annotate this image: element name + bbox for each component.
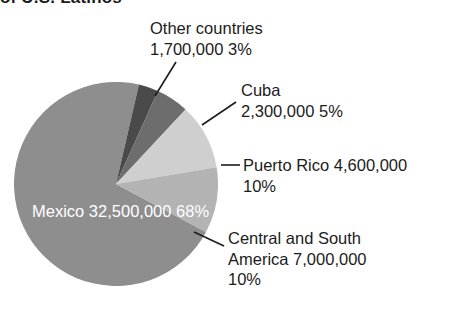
figure-title-cropped: of U.S. Latinos bbox=[0, 0, 300, 10]
pie-label-other-countries: Other countries 1,700,000 3% bbox=[150, 18, 263, 59]
pie-label-other-countries-value: 1,700,000 3% bbox=[150, 39, 263, 60]
pie-chart: Mexico 32,500,000 68% bbox=[14, 82, 218, 286]
pie-label-cuba-value: 2,300,000 5% bbox=[241, 101, 343, 122]
pie-label-puerto-rico-name: Puerto Rico 4,600,000 bbox=[243, 155, 407, 176]
pie-label-cuba-name: Cuba bbox=[241, 80, 343, 101]
pie-label-central-south-america-name1: Central and South bbox=[228, 228, 367, 249]
pie-label-puerto-rico: Puerto Rico 4,600,000 10% bbox=[243, 155, 407, 196]
pie-label-central-south-america-percent: 10% bbox=[228, 269, 367, 290]
figure-title-text: of U.S. Latinos bbox=[0, 0, 300, 8]
pie-label-cuba: Cuba 2,300,000 5% bbox=[241, 80, 343, 121]
pie-label-puerto-rico-percent: 10% bbox=[243, 176, 407, 197]
pie-label-other-countries-name: Other countries bbox=[150, 18, 263, 39]
pie-label-central-south-america: Central and South America 7,000,000 10% bbox=[228, 228, 367, 290]
pie-label-central-south-america-name2: America 7,000,000 bbox=[228, 249, 367, 270]
chart-figure: of U.S. Latinos Mexico 32,500,000 68% bbox=[0, 0, 474, 319]
pie-svg bbox=[14, 82, 218, 286]
